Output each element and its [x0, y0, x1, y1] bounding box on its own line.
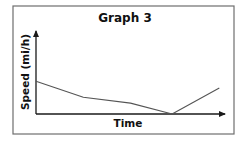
- line-chart: Graph 3 Time Speed (mi/h): [0, 0, 241, 146]
- y-axis-label: Speed (mi/h): [19, 34, 31, 110]
- chart-title: Graph 3: [98, 11, 152, 25]
- x-axis-label: Time: [114, 117, 143, 129]
- chart-frame: [13, 6, 234, 134]
